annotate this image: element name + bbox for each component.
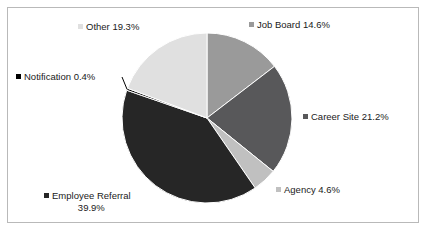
leader-line-group [122, 77, 127, 89]
leader-line-notification [122, 77, 127, 89]
legend-swatch-career-site [303, 114, 308, 119]
pie-label-career-site[interactable]: Career Site 21.2% [303, 111, 389, 123]
pie-label-other[interactable]: Other 19.3% [78, 21, 139, 33]
legend-swatch-notification [16, 74, 21, 79]
legend-swatch-job-board [249, 22, 254, 27]
pie-label-notification[interactable]: Notification 0.4% [16, 71, 95, 83]
legend-swatch-employee-referral [44, 193, 49, 198]
legend-swatch-other [78, 24, 83, 29]
pie-label-employee-referral-text: Employee Referral 39.9% [52, 190, 131, 213]
pie-label-agency[interactable]: Agency 4.6% [276, 184, 340, 196]
pie-chart-figure: Other 19.3% Job Board 14.6% Career Site … [0, 0, 427, 232]
pie-label-career-site-text: Career Site 21.2% [311, 111, 389, 123]
pie-label-job-board-text: Job Board 14.6% [257, 19, 330, 31]
pie-label-notification-text: Notification 0.4% [24, 71, 95, 83]
pie-label-agency-text: Agency 4.6% [284, 184, 340, 196]
pie-label-other-text: Other 19.3% [86, 21, 139, 33]
pie-label-job-board[interactable]: Job Board 14.6% [249, 19, 330, 31]
pie-slice-group [122, 33, 292, 203]
pie-label-employee-referral[interactable]: Employee Referral 39.9% [44, 190, 131, 213]
legend-swatch-agency [276, 187, 281, 192]
pie-label-employee-referral-line2: 39.9% [52, 202, 131, 214]
pie-label-employee-referral-line1: Employee Referral [52, 190, 131, 201]
